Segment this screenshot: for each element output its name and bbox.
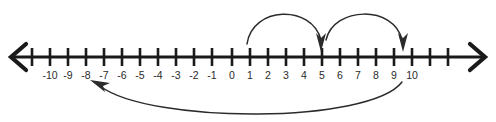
tick-label: -5 <box>135 69 144 81</box>
number-line-diagram: -10 -9 -8 -7 -6 -5 -4 -3 -2 -1 0 1 2 3 4… <box>0 0 496 122</box>
jump-arc-0-to-4 <box>247 14 326 52</box>
jump-arc-0-to-4-path <box>247 14 321 44</box>
tick-label: 9 <box>391 69 397 81</box>
tick-label: -6 <box>117 69 126 81</box>
tick-label: -8 <box>81 69 90 81</box>
tick-label: 2 <box>265 69 271 81</box>
jump-arc-4-to-8-path <box>326 14 402 40</box>
tick-label: -3 <box>171 69 180 81</box>
return-arc-8-to-minus-8 <box>90 80 402 114</box>
tick-label: 4 <box>301 69 307 81</box>
tick-label: 1 <box>247 69 253 81</box>
tick-label: -7 <box>99 69 108 81</box>
jump-arc-4-to-8 <box>326 14 408 52</box>
jump-arc-0-to-4-arrowhead-icon <box>316 33 326 52</box>
return-arc-path <box>100 82 402 114</box>
tick-labels: -10 -9 -8 -7 -6 -5 -4 -3 -2 -1 0 1 2 3 4… <box>42 69 418 81</box>
tick-label: 8 <box>373 69 379 81</box>
tick-label: -10 <box>42 69 57 81</box>
tick-label: 5 <box>319 69 325 81</box>
tick-label: 0 <box>229 69 235 81</box>
tick-label: 6 <box>337 69 343 81</box>
tick-label: 10 <box>406 69 418 81</box>
diagram-canvas: -10 -9 -8 -7 -6 -5 -4 -3 -2 -1 0 1 2 3 4… <box>0 0 496 122</box>
tick-label: -4 <box>153 69 162 81</box>
tick-label: -9 <box>63 69 72 81</box>
tick-label: 3 <box>283 69 289 81</box>
tick-label: 7 <box>355 69 361 81</box>
jump-arc-4-to-8-arrowhead-icon <box>398 33 408 52</box>
tick-label: -1 <box>207 69 216 81</box>
tick-label: -2 <box>189 69 198 81</box>
